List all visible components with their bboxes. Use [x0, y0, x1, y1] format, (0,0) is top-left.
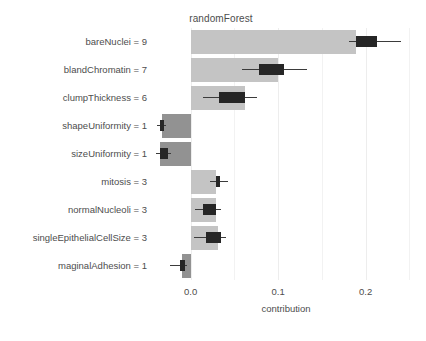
- bar-positive: [191, 170, 216, 194]
- y-axis-label: clumpThickness = 6: [63, 92, 147, 103]
- bar-row: [160, 84, 412, 112]
- bar-row: [160, 112, 412, 140]
- y-axis-label: maginalAdhesion = 1: [58, 260, 147, 271]
- y-axis-label: shapeUniformity = 1: [62, 120, 147, 131]
- bar-row: [160, 56, 412, 84]
- bar-negative: [162, 114, 191, 138]
- boxplot-box: [180, 260, 184, 271]
- y-axis-label: blandChromatin = 7: [64, 64, 147, 75]
- boxplot-box: [216, 176, 220, 187]
- bar-positive: [191, 30, 356, 54]
- boxplot-box: [203, 204, 216, 215]
- y-axis-label: singleEpithelialCellSize = 3: [33, 232, 147, 243]
- y-axis-label: mitosis = 3: [101, 176, 147, 187]
- random-forest-contribution-chart: randomForest bareNuclei = 9blandChromati…: [0, 0, 426, 341]
- y-axis-label: normalNucleoli = 3: [68, 204, 147, 215]
- plot-area: [160, 28, 412, 280]
- boxplot-box: [160, 148, 168, 159]
- bar-row: [160, 196, 412, 224]
- bar-row: [160, 224, 412, 252]
- y-axis-labels: bareNuclei = 9blandChromatin = 7clumpThi…: [0, 28, 155, 280]
- x-axis-tick-labels: 0.00.10.2: [160, 286, 412, 300]
- boxplot-box: [259, 64, 284, 75]
- x-axis-title: contribution: [160, 303, 412, 314]
- bar-row: [160, 28, 412, 56]
- bar-rows: [160, 28, 412, 280]
- bar-row: [160, 140, 412, 168]
- y-axis-label: sizeUniformity = 1: [71, 148, 147, 159]
- x-axis-tick-label: 0.1: [272, 286, 285, 297]
- chart-title: randomForest: [0, 13, 426, 24]
- boxplot-box: [160, 120, 164, 131]
- y-axis-label: bareNuclei = 9: [85, 36, 147, 47]
- boxplot-box: [219, 92, 245, 103]
- bar-row: [160, 252, 412, 280]
- x-axis-tick-label: 0.2: [359, 286, 372, 297]
- boxplot-box: [206, 232, 222, 243]
- bar-row: [160, 168, 412, 196]
- boxplot-whisker: [170, 265, 188, 266]
- boxplot-box: [356, 36, 377, 47]
- x-axis-tick-label: 0.0: [184, 286, 197, 297]
